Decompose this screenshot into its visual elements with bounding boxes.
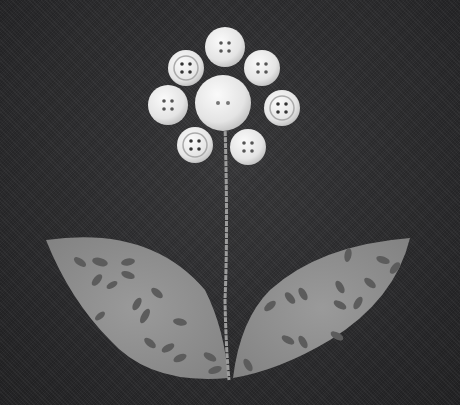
left-leaf — [46, 237, 228, 379]
button-top-left — [168, 50, 204, 86]
denim-background: Fabric applique flower made of buttons o… — [0, 0, 460, 405]
button-center — [195, 75, 251, 131]
button-top-right — [244, 50, 280, 86]
button-top — [205, 27, 245, 67]
button-left — [148, 85, 188, 125]
flower-artwork — [0, 0, 460, 405]
button-flower — [148, 27, 300, 165]
button-right — [264, 90, 300, 126]
right-leaf — [233, 238, 410, 378]
button-bottom-left — [177, 127, 213, 163]
stem — [225, 125, 229, 380]
button-bottom-right — [230, 129, 266, 165]
